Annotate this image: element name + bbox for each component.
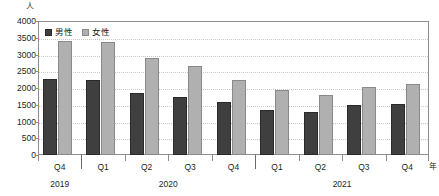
x-axis-year-label: 2019 bbox=[38, 179, 81, 189]
bar-male[interactable] bbox=[217, 102, 231, 155]
x-axis-tick-mark bbox=[428, 155, 429, 161]
bar-group bbox=[125, 21, 168, 155]
bar-female[interactable] bbox=[188, 66, 202, 155]
legend-label-male: 男性 bbox=[55, 27, 73, 37]
x-axis-quarter-label: Q4 bbox=[212, 162, 255, 172]
legend-label-female: 女性 bbox=[92, 27, 110, 37]
bars-layer bbox=[38, 21, 429, 155]
y-axis-tick-label: 1000 bbox=[2, 117, 36, 126]
y-axis-tick-label: 2500 bbox=[2, 67, 36, 76]
x-axis-quarter-label: Q1 bbox=[81, 162, 124, 172]
bar-female[interactable] bbox=[101, 42, 115, 155]
bar-male[interactable] bbox=[86, 80, 100, 155]
x-axis-quarter-label: Q1 bbox=[255, 162, 298, 172]
bar-male[interactable] bbox=[173, 97, 187, 155]
x-axis-tick-mark bbox=[168, 155, 169, 161]
legend-item-male: 男性 bbox=[45, 27, 73, 37]
bar-female[interactable] bbox=[406, 84, 420, 155]
bar-group bbox=[386, 21, 429, 155]
bar-male[interactable] bbox=[391, 104, 405, 155]
bar-group bbox=[255, 21, 298, 155]
x-axis: Q4Q1Q2Q3Q4Q1Q2Q3Q4201920202021 bbox=[38, 155, 429, 196]
bar-female[interactable] bbox=[362, 87, 376, 155]
x-axis-quarter-label: Q2 bbox=[125, 162, 168, 172]
y-axis-tick-label: 3500 bbox=[2, 33, 36, 42]
y-axis-tick-label: 1500 bbox=[2, 100, 36, 109]
bar-female[interactable] bbox=[319, 95, 333, 155]
legend-swatch-male-icon bbox=[45, 29, 52, 36]
legend: 男性 女性 bbox=[42, 26, 113, 38]
bar-female[interactable] bbox=[232, 80, 246, 155]
x-axis-tick-mark bbox=[342, 155, 343, 161]
bar-chart: 人 40003500300025002000150010005000 男性 女性… bbox=[0, 0, 439, 196]
bar-female[interactable] bbox=[275, 90, 289, 155]
x-axis-quarter-label: Q4 bbox=[38, 162, 81, 172]
x-axis-year-separator bbox=[255, 155, 256, 169]
bar-male[interactable] bbox=[43, 79, 57, 155]
x-axis-year-label: 2021 bbox=[255, 179, 429, 189]
bar-male[interactable] bbox=[347, 105, 361, 155]
legend-item-female: 女性 bbox=[82, 27, 110, 37]
bar-group bbox=[342, 21, 385, 155]
x-axis-quarter-label: Q2 bbox=[299, 162, 342, 172]
bar-male[interactable] bbox=[130, 93, 144, 155]
y-axis-tick-label: 4000 bbox=[2, 17, 36, 26]
y-axis-ticks: 40003500300025002000150010005000 bbox=[0, 21, 36, 155]
x-axis-tick-mark bbox=[125, 155, 126, 161]
bar-group bbox=[81, 21, 124, 155]
bar-male[interactable] bbox=[260, 110, 274, 155]
bar-female[interactable] bbox=[58, 41, 72, 155]
bar-group bbox=[212, 21, 255, 155]
x-axis-unit-label: 年 bbox=[429, 162, 437, 171]
y-axis-unit-label: 人 bbox=[26, 2, 34, 11]
bar-group bbox=[38, 21, 81, 155]
x-axis-year-separator bbox=[81, 155, 82, 169]
y-axis-tick-label: 2000 bbox=[2, 84, 36, 93]
bar-group bbox=[168, 21, 211, 155]
bar-group bbox=[299, 21, 342, 155]
x-axis-quarter-label: Q3 bbox=[342, 162, 385, 172]
y-axis-tick-label: 3000 bbox=[2, 50, 36, 59]
bar-female[interactable] bbox=[145, 58, 159, 155]
x-axis-tick-mark bbox=[299, 155, 300, 161]
x-axis-tick-mark bbox=[386, 155, 387, 161]
y-axis-tick-label: 500 bbox=[2, 134, 36, 143]
x-axis-quarter-label: Q4 bbox=[386, 162, 429, 172]
legend-swatch-female-icon bbox=[82, 29, 89, 36]
x-axis-tick-mark bbox=[212, 155, 213, 161]
x-axis-tick-mark bbox=[38, 155, 39, 161]
bar-male[interactable] bbox=[304, 112, 318, 155]
x-axis-year-label: 2020 bbox=[81, 179, 255, 189]
y-axis-tick-label: 0 bbox=[2, 151, 36, 160]
x-axis-quarter-label: Q3 bbox=[168, 162, 211, 172]
